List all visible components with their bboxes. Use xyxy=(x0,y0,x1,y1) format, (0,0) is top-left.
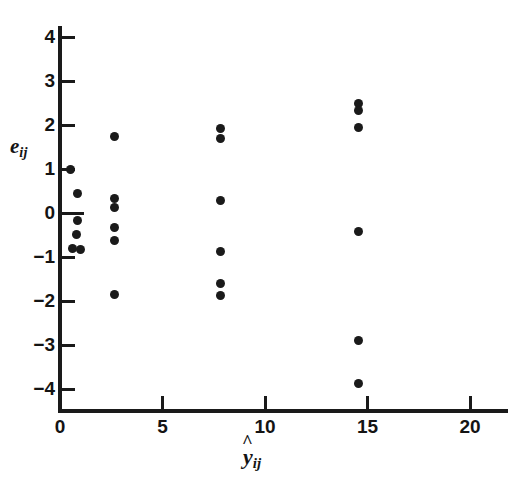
data-point xyxy=(354,336,363,345)
y-axis-tick-label: −3 xyxy=(33,335,55,354)
data-point xyxy=(110,236,119,245)
data-point xyxy=(354,106,363,115)
y-axis-tick xyxy=(62,36,75,39)
y-axis-tick-label: 2 xyxy=(44,115,55,134)
x-axis-title-hatted-base: ^y xyxy=(243,444,253,470)
y-axis-tick xyxy=(62,300,75,303)
data-point xyxy=(354,227,363,236)
data-point xyxy=(110,290,119,299)
data-point xyxy=(73,189,82,198)
y-axis-title-subscript: ij xyxy=(19,144,27,160)
x-axis-tick-label: 10 xyxy=(254,417,275,436)
data-point xyxy=(354,379,363,388)
y-axis-line xyxy=(58,26,62,413)
x-axis-title-subscript: ij xyxy=(253,455,262,471)
x-axis-tick-label: 5 xyxy=(157,417,168,436)
data-point xyxy=(216,247,225,256)
y-axis-tick xyxy=(62,388,75,391)
y-axis-tick-label: 4 xyxy=(44,27,55,46)
data-point xyxy=(216,124,225,133)
y-axis-tick-label: −2 xyxy=(33,291,55,310)
y-axis-tick xyxy=(62,124,75,127)
y-axis-tick-label: 1 xyxy=(44,159,55,178)
x-axis-tick xyxy=(469,396,472,409)
data-point xyxy=(76,245,85,254)
data-point xyxy=(354,123,363,132)
y-axis-title: eij xyxy=(10,134,28,161)
x-axis-tick-label: 20 xyxy=(459,417,480,436)
y-axis-title-base: e xyxy=(10,134,19,158)
data-point xyxy=(110,194,119,203)
y-axis-tick-label: −4 xyxy=(33,379,55,398)
data-point xyxy=(216,196,225,205)
x-axis-tick xyxy=(264,396,267,409)
y-axis-tick-label: 3 xyxy=(44,71,55,90)
x-axis-tick xyxy=(59,396,62,409)
circumflex-icon: ^ xyxy=(242,431,253,453)
x-axis-line xyxy=(58,409,508,413)
residual-scatter-plot: 43210−1−2−3−405101520 eij ^yij xyxy=(0,0,519,484)
data-point xyxy=(110,203,119,212)
y-axis-tick xyxy=(62,256,75,259)
data-point xyxy=(216,279,225,288)
y-axis-tick xyxy=(62,80,75,83)
data-point xyxy=(72,230,81,239)
data-point xyxy=(110,223,119,232)
x-axis-tick xyxy=(366,396,369,409)
x-axis-tick-label: 0 xyxy=(55,417,66,436)
data-point xyxy=(216,291,225,300)
data-point xyxy=(73,216,82,225)
y-axis-tick xyxy=(62,212,84,215)
data-point xyxy=(216,134,225,143)
y-axis-tick-label: 0 xyxy=(44,203,55,222)
data-point xyxy=(110,132,119,141)
y-axis-tick xyxy=(62,344,75,347)
x-axis-tick-label: 15 xyxy=(357,417,378,436)
data-point xyxy=(66,165,75,174)
x-axis-tick xyxy=(161,396,164,409)
x-axis-title: ^yij xyxy=(243,444,261,472)
y-axis-tick-label: −1 xyxy=(33,247,55,266)
